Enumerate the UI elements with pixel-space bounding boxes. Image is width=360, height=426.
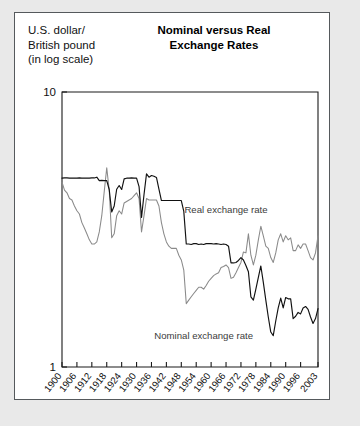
series-line-real-exchange-rate <box>62 168 318 304</box>
x-axis-tick-label: 2003 <box>298 370 320 394</box>
exchange-rate-line-chart: 110 190019061912191819241930193619421948… <box>15 13 331 401</box>
x-axis-tick-labels: 1900190619121918192419301936194219481954… <box>42 370 320 394</box>
y-axis-tick-label: 10 <box>43 86 56 98</box>
x-axis-tick-label: 1996 <box>280 370 302 394</box>
axis-frame <box>62 92 318 367</box>
plot-frame <box>62 92 318 367</box>
nominal-exchange-rate-label: Nominal exchange rate <box>154 330 253 341</box>
real-exchange-rate-label: Real exchange rate <box>184 204 267 215</box>
figure-card: U.S. dollar/ British pound (in log scale… <box>14 12 330 400</box>
y-axis-tick-labels: 110 <box>43 86 67 373</box>
series-line-nominal-exchange-rate <box>62 174 318 336</box>
x-axis-ticks <box>62 362 318 367</box>
plot-area: 110 190019061912191819241930193619421948… <box>15 13 331 401</box>
series-annotations: Real exchange rateNominal exchange rate <box>154 204 267 341</box>
